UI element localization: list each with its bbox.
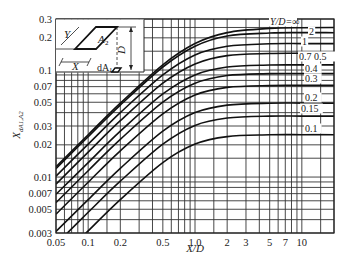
x-axis-ticks: 0.050.10.20.51.0235710 <box>47 237 307 248</box>
x-tick-label: 0.05 <box>47 237 65 248</box>
y-tick-label: 0.3 <box>39 14 52 25</box>
y-axis-ticks: 0.30.20.10.070.050.030.020.010.0070.0050… <box>28 14 52 239</box>
curve-label: 0.7 0.5 <box>299 51 327 62</box>
y-tick-label: 0.01 <box>34 172 52 183</box>
curve-label: 2 <box>309 26 314 37</box>
x-tick-label: 0.5 <box>156 237 169 248</box>
y-tick-label: 0.2 <box>39 32 52 43</box>
y-tick-label: 0.05 <box>34 97 52 108</box>
inset-label-da1-sub: 1 <box>109 66 113 74</box>
y-tick-label: 0.07 <box>34 81 52 92</box>
x-tick-label: 5 <box>267 237 272 248</box>
x-tick-label: 0.2 <box>114 237 127 248</box>
curve-label: 1 <box>302 36 307 47</box>
curve-label: 0.15 <box>301 103 319 114</box>
curve-label: Y/D=∞ <box>270 16 299 27</box>
inset-label-a2: A <box>97 33 105 45</box>
curve-label: 0.3 <box>305 73 318 84</box>
y-axis-title: XdA1,A2 <box>10 111 25 140</box>
y-tick-label: 0.003 <box>28 228 52 239</box>
x-tick-label: 10 <box>297 237 308 248</box>
y-tick-label: 0.007 <box>28 188 52 199</box>
y-tick-label: 0.02 <box>34 139 52 150</box>
x-tick-label: 3 <box>243 237 248 248</box>
y-tick-label: 0.03 <box>34 121 52 132</box>
x-tick-label: 2 <box>225 237 230 248</box>
inset-geometry-diagram: Y A 2 D X dA 1 <box>56 20 144 75</box>
curve-label: 0.2 <box>305 92 318 103</box>
inset-label-x: X <box>71 60 80 72</box>
x-tick-label: 7 <box>283 237 288 248</box>
view-factor-chart: 0.050.10.20.51.0235710 0.30.20.10.070.05… <box>0 0 354 272</box>
x-tick-label: 0.1 <box>82 237 95 248</box>
svg-text:XdA1,A2: XdA1,A2 <box>10 111 25 140</box>
inset-label-d: D <box>115 46 127 55</box>
curve-label: 0.1 <box>305 123 318 134</box>
inset-label-a2-sub: 2 <box>105 39 109 47</box>
y-tick-label: 0.005 <box>28 204 52 215</box>
y-tick-label: 0.1 <box>39 65 52 76</box>
x-axis-title: X/D <box>185 242 204 254</box>
